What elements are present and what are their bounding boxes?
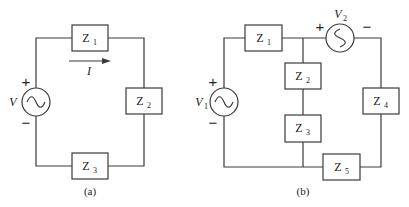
z4-subscript: 4	[384, 101, 388, 110]
impedance-b-z4: Z 4	[363, 88, 399, 114]
z3-subscript: 3	[93, 166, 97, 175]
z4-label: Z	[373, 94, 380, 108]
source-b2-label: V	[334, 7, 343, 21]
z5-label: Z	[334, 160, 341, 174]
circuit-a: Z 1 Z 2 Z 3 + − V I (a)	[9, 25, 162, 198]
z1-label: Z	[82, 31, 89, 45]
z2-label: Z	[295, 69, 302, 83]
ac-source-icon	[326, 24, 354, 52]
current-label: I	[86, 64, 92, 78]
wire-a-left-top	[36, 38, 72, 88]
z2-subscript: 2	[147, 101, 151, 110]
ac-source-icon	[22, 88, 50, 116]
z1-subscript: 1	[93, 38, 97, 47]
source-b1-minus: −	[209, 114, 218, 131]
wire-a-right-bottom	[108, 114, 144, 166]
source-b1-subscript: 1	[204, 102, 208, 111]
z3-label: Z	[295, 121, 302, 135]
source-a-label: V	[9, 95, 18, 109]
wire-b-right-bottom	[360, 114, 381, 167]
z3-label: Z	[82, 159, 89, 173]
wire-a-right-top	[108, 38, 144, 88]
circuit-b: Z 1 Z 2 Z 3 Z 4 Z 5	[195, 7, 399, 198]
z1-label: Z	[256, 31, 263, 45]
source-b2-subscript: 2	[343, 14, 347, 23]
source-b1-plus: +	[209, 73, 218, 90]
source-b2-plus: +	[316, 18, 325, 35]
ac-source-icon	[210, 88, 238, 116]
wire-b-right-top	[354, 38, 381, 88]
caption-b: (b)	[297, 185, 310, 198]
circuit-figure: Z 1 Z 2 Z 3 + − V I (a)	[0, 0, 409, 207]
impedance-a-z3: Z 3	[72, 153, 108, 179]
source-b1-label: V	[195, 95, 204, 109]
source-a-minus: −	[22, 114, 31, 131]
z3-subscript: 3	[306, 128, 310, 137]
z5-subscript: 5	[345, 167, 349, 176]
z2-label: Z	[136, 94, 143, 108]
impedance-a-z2: Z 2	[126, 88, 162, 114]
source-a-plus: +	[22, 73, 31, 90]
impedance-a-z1: Z 1	[72, 25, 108, 51]
impedance-b-z5: Z 5	[323, 154, 360, 180]
impedance-b-z2: Z 2	[285, 63, 321, 89]
wire-a-left-bottom	[36, 116, 72, 166]
source-b2-minus: −	[363, 18, 372, 35]
z2-subscript: 2	[306, 76, 310, 85]
impedance-b-z1: Z 1	[245, 25, 282, 51]
impedance-b-z3: Z 3	[285, 115, 321, 142]
z1-subscript: 1	[267, 38, 271, 47]
wire-b-left-top	[224, 38, 245, 88]
caption-a: (a)	[84, 185, 97, 198]
